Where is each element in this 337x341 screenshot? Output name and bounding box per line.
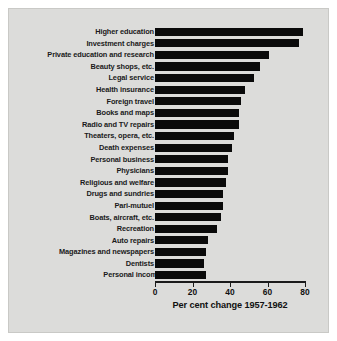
bar-track: [155, 108, 322, 118]
bar-category-label: Dentists: [126, 258, 154, 270]
x-axis-tick-label: 80: [300, 287, 309, 297]
x-axis-tick-label: 40: [225, 287, 234, 297]
bar-row: Recreation: [9, 223, 328, 235]
bar: [155, 62, 260, 70]
bar-row: Boats, aircraft, etc.: [9, 212, 328, 224]
bar-track: [155, 97, 322, 107]
x-axis-title: Per cent change 1957-1962: [155, 300, 305, 310]
bar-track: [155, 155, 322, 165]
bar: [155, 225, 217, 233]
bar-row: Books and maps: [9, 107, 328, 119]
bar-category-label: Health insurance: [96, 84, 154, 96]
bar-row: Physicians: [9, 165, 328, 177]
bar-track: [155, 120, 322, 130]
bar-track: [155, 270, 322, 280]
bar-row: Dentists: [9, 258, 328, 270]
bar: [155, 202, 223, 210]
bar-row: Personal income: [9, 269, 328, 281]
bar-category-label: Books and maps: [96, 107, 154, 119]
bar-track: [155, 178, 322, 188]
bar-track: [155, 259, 322, 269]
bar-rows: Higher educationInvestment chargesPrivat…: [9, 26, 328, 281]
bar-row: Drugs and sundries: [9, 188, 328, 200]
bar: [155, 51, 269, 59]
x-axis-tick: [268, 281, 269, 287]
bar-track: [155, 224, 322, 234]
bar: [155, 132, 234, 140]
bar-row: Beauty shops, etc.: [9, 61, 328, 73]
bar-row: Health insurance: [9, 84, 328, 96]
bar-category-label: Radio and TV repairs: [82, 119, 154, 131]
bar-category-label: Beauty shops, etc.: [90, 61, 154, 73]
bar-row: Private education and research: [9, 49, 328, 61]
bar-track: [155, 50, 322, 60]
bar-track: [155, 62, 322, 72]
bar-category-label: Theaters, opera, etc.: [84, 130, 154, 142]
bar-track: [155, 131, 322, 141]
bar-category-label: Private education and research: [47, 49, 154, 61]
bar: [155, 190, 223, 198]
chart-panel: Higher educationInvestment chargesPrivat…: [9, 9, 328, 332]
chart-figure: Higher educationInvestment chargesPrivat…: [0, 0, 337, 341]
x-axis-tick-label: 20: [188, 287, 197, 297]
bar-category-label: Religious and welfare: [80, 177, 154, 189]
bar-track: [155, 189, 322, 199]
bar-row: Foreign travel: [9, 96, 328, 108]
bar-category-label: Boats, aircraft, etc.: [90, 212, 154, 224]
bar-category-label: Death expenses: [99, 142, 154, 154]
bar-track: [155, 236, 322, 246]
bar-track: [155, 213, 322, 223]
x-axis-tick: [193, 281, 194, 287]
bar: [155, 259, 204, 267]
bar-row: Death expenses: [9, 142, 328, 154]
plot-area: Higher educationInvestment chargesPrivat…: [9, 9, 328, 332]
bar-category-label: Legal service: [108, 72, 154, 84]
bar: [155, 86, 245, 94]
x-axis: 020406080: [155, 281, 305, 283]
bar-category-label: Foreign travel: [107, 96, 154, 108]
bar-row: Theaters, opera, etc.: [9, 130, 328, 142]
bar: [155, 39, 299, 47]
x-axis-tick-label: 0: [153, 287, 158, 297]
bar-track: [155, 166, 322, 176]
x-axis-tick-label: 60: [263, 287, 272, 297]
bar: [155, 271, 206, 279]
bar-category-label: Recreation: [117, 223, 154, 235]
bar-track: [155, 73, 322, 83]
bar: [155, 155, 228, 163]
bar-row: Personal business: [9, 154, 328, 166]
bar-category-label: Physicians: [116, 165, 154, 177]
bar-category-label: Magazines and newspapers: [59, 246, 154, 258]
bar-category-label: Pari-mutuel: [114, 200, 154, 212]
bar: [155, 213, 221, 221]
bar: [155, 28, 303, 36]
bar-track: [155, 39, 322, 49]
bar-category-label: Auto repairs: [112, 235, 154, 247]
bar: [155, 144, 232, 152]
bar-category-label: Personal income: [103, 269, 161, 281]
bar-category-label: Higher education: [95, 26, 154, 38]
bar: [155, 167, 228, 175]
bar-row: Pari-mutuel: [9, 200, 328, 212]
bar-track: [155, 247, 322, 257]
bar-track: [155, 201, 322, 211]
bar-row: Religious and welfare: [9, 177, 328, 189]
x-axis-tick: [155, 281, 156, 287]
bar: [155, 248, 206, 256]
bar-row: Auto repairs: [9, 235, 328, 247]
bar: [155, 120, 239, 128]
bar-row: Magazines and newspapers: [9, 246, 328, 258]
bar-category-label: Investment charges: [86, 38, 154, 50]
bar-track: [155, 27, 322, 37]
bar-row: Legal service: [9, 72, 328, 84]
bar-track: [155, 85, 322, 95]
bar-category-label: Drugs and sundries: [86, 188, 154, 200]
bar-row: Investment charges: [9, 38, 328, 50]
bar-row: Higher education: [9, 26, 328, 38]
bar: [155, 97, 241, 105]
x-axis-tick: [305, 281, 306, 287]
bar: [155, 178, 226, 186]
bar: [155, 236, 208, 244]
bar-category-label: Personal business: [90, 154, 154, 166]
bar: [155, 109, 239, 117]
